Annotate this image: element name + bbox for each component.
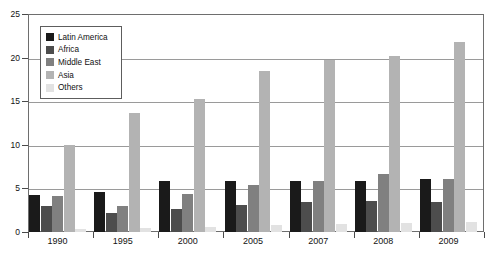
bar [140, 228, 151, 232]
y-tick-label: 15 [11, 97, 20, 105]
bar [194, 99, 205, 232]
bar [301, 202, 312, 232]
legend-label-middle-east: Middle East [58, 58, 101, 67]
bar-group [355, 14, 412, 232]
bar [454, 42, 465, 232]
y-tick-label: 5 [15, 184, 20, 192]
bar [466, 222, 477, 232]
bar [225, 181, 236, 232]
bar-group [290, 14, 347, 232]
legend-swatch-middle-east [46, 58, 54, 66]
bar-group [159, 14, 216, 232]
y-axis: 0510152025 [0, 0, 26, 263]
x-tick-mark [158, 232, 159, 238]
bar [182, 194, 193, 232]
y-tick-mark [22, 14, 28, 15]
x-tick-label: 2007 [308, 236, 328, 246]
bar [389, 56, 400, 232]
x-tick-mark [28, 232, 29, 238]
y-tick-label: 10 [11, 141, 20, 149]
x-tick-mark [223, 232, 224, 238]
legend-item-africa[interactable]: Africa [46, 44, 114, 57]
bar [401, 223, 412, 232]
bar [236, 205, 247, 232]
x-tick-mark [484, 232, 485, 238]
x-tick-label: 1995 [113, 236, 133, 246]
y-tick-label: 20 [11, 54, 20, 62]
legend-swatch-others [46, 84, 54, 92]
bar [64, 145, 75, 232]
bar [248, 185, 259, 232]
bar [29, 195, 40, 232]
x-tick-mark [93, 232, 94, 238]
y-tick-mark [22, 188, 28, 189]
bar [443, 179, 454, 232]
x-tick-mark [289, 232, 290, 238]
legend-swatch-asia [46, 71, 54, 79]
legend: Latin America Africa Middle East Asia Ot… [40, 26, 122, 99]
x-tick-mark [419, 232, 420, 238]
x-tick-label: 1990 [48, 236, 68, 246]
bar [259, 71, 270, 232]
bar [378, 174, 389, 232]
x-tick-label: 2005 [243, 236, 263, 246]
legend-label-asia: Asia [58, 71, 74, 80]
bar [171, 209, 182, 232]
bar [205, 227, 216, 232]
bar [271, 225, 282, 232]
bar [117, 206, 128, 232]
x-axis: 1990199520002005200720082009 [28, 236, 484, 256]
bar [420, 179, 431, 232]
y-tick-label: 0 [15, 228, 20, 236]
legend-item-latin-america[interactable]: Latin America [46, 31, 114, 44]
y-tick-mark [22, 145, 28, 146]
bar-chart: 0510152025 1990199520002005200720082009 … [0, 0, 500, 263]
bar [355, 181, 366, 232]
bar [324, 60, 335, 232]
bar [431, 202, 442, 232]
legend-label-latin-america: Latin America [58, 33, 108, 42]
legend-swatch-latin-america [46, 33, 54, 41]
legend-item-middle-east[interactable]: Middle East [46, 56, 114, 69]
bar [106, 213, 117, 232]
x-tick-label: 2009 [438, 236, 458, 246]
x-tick-label: 2000 [178, 236, 198, 246]
legend-swatch-africa [46, 46, 54, 54]
legend-item-asia[interactable]: Asia [46, 69, 114, 82]
bar [94, 192, 105, 232]
bar [41, 206, 52, 232]
bar [52, 196, 63, 232]
bar [366, 201, 377, 232]
y-tick-label: 25 [11, 10, 20, 18]
legend-item-others[interactable]: Others [46, 81, 114, 94]
legend-label-others: Others [58, 83, 83, 92]
bar [159, 181, 170, 232]
bar [336, 224, 347, 232]
bar [75, 229, 86, 232]
bar-group [225, 14, 282, 232]
legend-label-africa: Africa [58, 45, 79, 54]
bar [129, 113, 140, 232]
y-tick-mark [22, 101, 28, 102]
y-tick-mark [22, 58, 28, 59]
bar [313, 181, 324, 232]
bar [290, 181, 301, 232]
bar-group [420, 14, 477, 232]
x-tick-mark [354, 232, 355, 238]
x-tick-label: 2008 [373, 236, 393, 246]
